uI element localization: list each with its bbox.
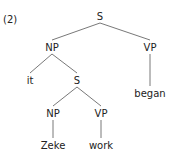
- tree-nodes: SNPVPitSbeganNPVPZekework: [27, 11, 166, 151]
- tree-node-vp-embedded: VP: [95, 108, 108, 119]
- tree-node-np-embedded: NP: [46, 108, 60, 119]
- tree-edge-s-root-to-np-main: [52, 23, 100, 40]
- tree-edge-s-root-to-vp-main: [100, 23, 150, 40]
- tree-edge-s-embedded-to-vp-embedded: [77, 87, 101, 106]
- tree-node-work: work: [89, 140, 113, 151]
- tree-edge-np-main-to-s-embedded: [52, 54, 77, 73]
- tree-node-s-embedded: S: [74, 75, 80, 86]
- tree-node-vp-main: VP: [144, 42, 157, 53]
- tree-node-it: it: [27, 75, 34, 86]
- syntax-tree-diagram: (2) SNPVPitSbeganNPVPZekework: [0, 0, 178, 154]
- tree-node-s-root: S: [97, 11, 103, 22]
- tree-node-began: began: [134, 88, 165, 99]
- tree-edges: [30, 23, 150, 138]
- tree-edge-s-embedded-to-np-embedded: [53, 87, 77, 106]
- example-number: (2): [3, 14, 17, 25]
- tree-node-np-main: NP: [45, 42, 59, 53]
- tree-edge-np-main-to-it: [30, 54, 52, 73]
- tree-node-zeke: Zeke: [41, 140, 66, 151]
